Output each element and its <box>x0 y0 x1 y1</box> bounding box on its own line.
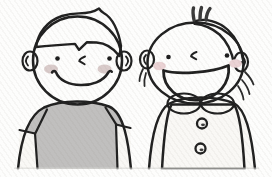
girl-left-ear-inner <box>144 55 146 64</box>
girl-right-eye <box>225 53 230 58</box>
child-left-figure <box>18 9 132 170</box>
girl-nose <box>191 52 196 59</box>
boy-left-ear-inner <box>26 57 28 66</box>
girl-button-bottom-dot <box>200 148 204 151</box>
girl-button-top-dot <box>201 123 205 126</box>
bottom-whitespace <box>0 169 272 177</box>
boy-right-arm-edge <box>116 125 118 170</box>
girl-right-blush <box>229 59 242 67</box>
girl-hair-tufts <box>193 8 210 21</box>
boy-left-eye <box>55 56 60 61</box>
boy-right-ear-inner <box>126 57 128 66</box>
girl-left-blush <box>153 62 166 70</box>
boy-nose <box>79 57 85 65</box>
boy-left-ear <box>23 52 38 71</box>
girl-left-eye <box>166 55 171 60</box>
illustration-canvas <box>0 0 272 177</box>
child-right-figure <box>140 8 256 170</box>
girl-left-ear-wisps <box>140 69 147 86</box>
boy-right-eye <box>107 56 112 61</box>
two-children-illustration <box>0 0 272 177</box>
